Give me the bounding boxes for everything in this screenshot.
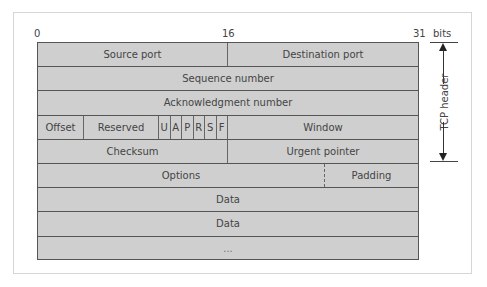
tcp-header-table: Source port Destination port Sequence nu… [37,42,419,260]
field-data: Data [38,212,418,235]
field-urgent-pointer: Urgent pointer [228,140,418,163]
flag-rst: R [194,116,206,139]
bits-unit-label: bits [433,28,451,39]
bit-label-16: 16 [222,28,235,39]
bracket-bottom-tick [430,161,458,162]
field-window: Window [228,116,418,139]
row-checksum: Checksum Urgent pointer [38,140,418,164]
field-checksum: Checksum [38,140,228,163]
field-reserved: Reserved [84,116,159,139]
field-acknowledgment-number: Acknowledgment number [38,91,418,114]
bracket-line-bottom [443,122,444,154]
flag-psh: P [182,116,194,139]
tcp-header-label: TCP header [439,74,450,131]
field-data: Data [38,188,418,211]
bit-label-0: 0 [34,28,40,39]
flag-urg: U [159,116,171,139]
row-ack: Acknowledgment number [38,91,418,115]
field-offset: Offset [38,116,84,139]
arrow-down-icon [439,153,447,161]
row-ellipsis: ... [38,237,418,261]
flag-fin: F [217,116,229,139]
row-data-2: Data [38,212,418,236]
row-sequence: Sequence number [38,67,418,91]
field-ellipsis: ... [38,237,418,261]
row-data-1: Data [38,188,418,212]
field-source-port: Source port [38,43,228,66]
bit-label-31: 31 [413,28,426,39]
flag-ack: A [171,116,183,139]
row-flags: Offset Reserved U A P R S F Window [38,116,418,140]
field-options: Options [38,164,325,187]
flag-syn: S [205,116,217,139]
field-sequence-number: Sequence number [38,67,418,90]
row-ports: Source port Destination port [38,43,418,67]
tcp-header-bracket: TCP header [422,42,462,162]
field-padding: Padding [325,164,418,187]
row-options: Options Padding [38,164,418,188]
field-destination-port: Destination port [228,43,418,66]
